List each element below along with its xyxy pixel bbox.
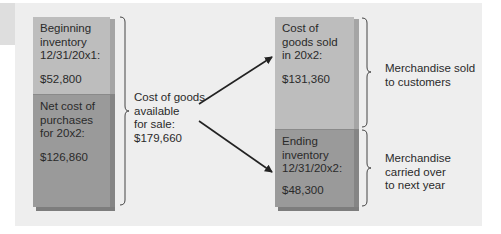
arrow-to-ending-inventory-icon — [199, 121, 272, 172]
right-bottom-brace-icon — [362, 130, 371, 206]
arrow-to-cogs-icon — [199, 57, 272, 104]
right-top-brace-icon — [362, 18, 371, 127]
connectors-layer — [0, 0, 501, 234]
left-brace-icon — [120, 17, 129, 205]
